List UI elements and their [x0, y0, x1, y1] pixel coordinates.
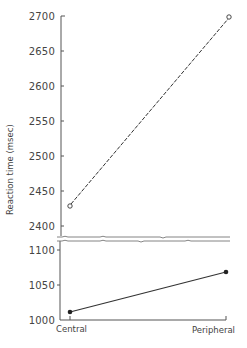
x-label-central: Central [56, 324, 87, 334]
upper-ticks [61, 16, 65, 226]
filled-circle-marker-central [68, 310, 73, 315]
series-filled-circle-line [70, 272, 226, 312]
tick-label-2650: 2650 [29, 46, 55, 57]
tick-label-2550: 2550 [29, 116, 55, 127]
axis-break [57, 236, 230, 242]
tick-label-2500: 2500 [29, 151, 55, 162]
tick-label-2700: 2700 [29, 11, 55, 22]
tick-label-1000: 1000 [29, 315, 55, 326]
open-circle-marker-peripheral [227, 15, 231, 19]
open-circle-marker-central [68, 204, 72, 208]
filled-circle-marker-peripheral [224, 270, 229, 275]
tick-label-1050: 1050 [29, 280, 55, 291]
tick-label-1100: 1100 [29, 245, 55, 256]
tick-label-2600: 2600 [29, 81, 55, 92]
tick-label-2450: 2450 [29, 186, 55, 197]
y-axis-title: Reaction time (msec) [5, 124, 15, 215]
series-open-circle-line [71, 19, 228, 204]
reaction-time-chart: Reaction time (msec) 2700 2650 2600 2550… [0, 0, 247, 348]
tick-label-2400: 2400 [29, 221, 55, 232]
x-label-peripheral: Peripheral [192, 325, 235, 335]
